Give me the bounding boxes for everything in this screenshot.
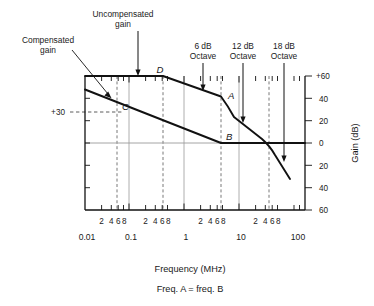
bode-plot-figure: Uncompensated gain Compensated gain 6 dB…: [0, 0, 374, 306]
x-decade-label-0-01: 0.01: [79, 232, 96, 242]
x-minor-8-d1: 8: [122, 217, 127, 226]
x-decade-label-100: 100: [291, 232, 306, 242]
y-tick-label-60-negative: 60: [319, 206, 329, 215]
slope-6db-annotation-line2: Octave: [190, 51, 217, 61]
y-tick-label-20-negative: 20: [319, 162, 329, 171]
compensated-gain-annotation-line1: Compensated: [22, 35, 74, 45]
slope-18db-annotation-line2: Octave: [271, 51, 298, 61]
chart-background: [0, 0, 374, 306]
x-axis-title: Frequency (MHz): [155, 264, 226, 274]
uncompensated-gain-annotation-line1: Uncompensated: [93, 9, 154, 19]
slope-12db-annotation-line1: 12 dB: [232, 41, 254, 51]
x-minor-4-d2: 4: [153, 217, 158, 226]
y-tick-label-40-positive: 40: [319, 95, 329, 104]
x-minor-2-d3: 2: [198, 217, 203, 226]
x-minor-6-d4: 6: [270, 217, 275, 226]
x-minor-2-d2: 2: [143, 217, 148, 226]
point-label-c: C: [122, 101, 129, 112]
x-minor-2-d4: 2: [253, 217, 258, 226]
x-minor-labels-decade4: 2 4 6 8: [253, 217, 281, 226]
x-decade-label-1: 1: [184, 232, 189, 242]
x-minor-8-d2: 8: [166, 217, 171, 226]
x-decade-label-0-1: 0.1: [125, 232, 137, 242]
reference-label-30db: +30: [51, 108, 65, 117]
x-minor-4-d4: 4: [263, 217, 268, 226]
x-minor-labels-decade1: 2 4 6 8: [99, 217, 127, 226]
x-minor-4-d1: 4: [109, 217, 114, 226]
x-decade-label-10: 10: [236, 232, 246, 242]
point-label-a: A: [227, 90, 234, 101]
slope-6db-annotation-line1: 6 dB: [194, 41, 212, 51]
x-minor-labels-decade2: 2 4 6 8: [143, 217, 171, 226]
chart-svg: Uncompensated gain Compensated gain 6 dB…: [0, 0, 374, 306]
x-minor-6-d3: 6: [215, 217, 220, 226]
y-tick-label-40-negative: 40: [319, 184, 329, 193]
point-label-b: B: [226, 131, 233, 142]
slope-18db-annotation-line1: 18 dB: [273, 41, 295, 51]
point-label-d: D: [157, 64, 164, 75]
x-minor-6-d2: 6: [160, 217, 165, 226]
x-minor-8-d3: 8: [221, 217, 226, 226]
x-minor-4-d3: 4: [208, 217, 213, 226]
compensated-gain-annotation-line2: gain: [40, 45, 56, 55]
x-minor-6-d1: 6: [116, 217, 121, 226]
y-tick-label-20-positive: 20: [319, 117, 329, 126]
uncompensated-gain-annotation-line2: gain: [115, 19, 131, 29]
x-minor-2-d1: 2: [99, 217, 104, 226]
y-tick-label-60-positive: +60: [316, 72, 330, 81]
slope-12db-annotation-line2: Octave: [230, 51, 257, 61]
x-minor-labels-decade3: 2 4 6 8: [198, 217, 226, 226]
y-tick-label-zero: 0: [319, 139, 324, 148]
y-axis-title: Gain (dB): [350, 123, 360, 162]
x-minor-8-d4: 8: [276, 217, 281, 226]
figure-note: Freq. A = freq. B: [157, 284, 224, 294]
